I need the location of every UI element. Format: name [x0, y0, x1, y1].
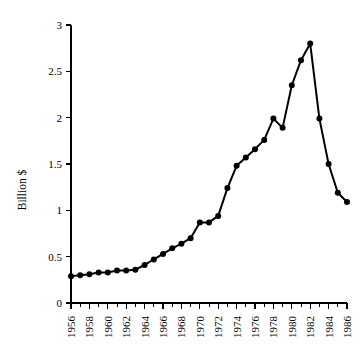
y-axis-title: Billion $	[16, 169, 28, 210]
data-point	[261, 137, 267, 143]
data-point	[215, 213, 221, 219]
data-point	[86, 271, 92, 277]
y-tick-label: 0.5	[48, 251, 62, 263]
x-tick-label: 1976	[249, 316, 261, 339]
x-tick-label: 1980	[286, 316, 298, 339]
x-axis-ticks	[71, 303, 347, 309]
y-tick-label: 1	[57, 204, 63, 216]
x-tick-label: 1956	[65, 316, 77, 339]
line-chart: 00.511.522.53 19561958196019621964196619…	[0, 0, 360, 359]
data-point	[335, 190, 341, 196]
x-tick-label: 1970	[194, 316, 206, 339]
x-tick-label: 1978	[267, 316, 279, 339]
data-point	[169, 245, 175, 251]
x-axis-tick-labels: 1956195819601962196419661968197019721974…	[65, 316, 353, 339]
x-tick-label: 1962	[120, 316, 132, 338]
y-axis-tick-labels: 00.511.522.53	[48, 19, 62, 309]
x-tick-label: 1964	[139, 316, 151, 339]
data-point	[326, 161, 332, 167]
data-point	[252, 146, 258, 152]
data-point	[188, 235, 194, 241]
data-point	[316, 116, 322, 122]
x-tick-label: 1974	[231, 316, 243, 339]
data-point	[197, 219, 203, 225]
x-tick-label: 1982	[304, 316, 316, 338]
data-point	[114, 268, 120, 274]
y-tick-label: 1.5	[48, 158, 62, 170]
data-point	[344, 199, 350, 205]
data-point	[96, 269, 102, 275]
data-point	[206, 219, 212, 225]
x-tick-label: 1958	[83, 316, 95, 339]
x-tick-label: 1960	[102, 316, 114, 339]
y-tick-label: 2.5	[48, 65, 62, 77]
y-tick-label: 3	[57, 19, 63, 31]
data-point	[270, 116, 276, 122]
data-point	[298, 57, 304, 63]
chart-container: 00.511.522.53 19561958196019621964196619…	[0, 0, 360, 359]
y-axis-ticks	[66, 25, 71, 303]
x-tick-label: 1972	[212, 316, 224, 338]
data-point	[68, 273, 74, 279]
data-point	[160, 251, 166, 257]
data-point	[123, 268, 129, 274]
axis-lines	[71, 25, 347, 303]
data-point	[132, 267, 138, 273]
series-markers	[68, 41, 350, 280]
y-tick-label: 2	[57, 112, 63, 124]
data-point	[151, 256, 157, 262]
series-line	[71, 44, 347, 277]
data-point	[289, 82, 295, 88]
data-point	[105, 269, 111, 275]
data-point	[224, 185, 230, 191]
data-point	[77, 272, 83, 278]
x-tick-label: 1966	[157, 316, 169, 339]
y-tick-label: 0	[57, 297, 63, 309]
data-point	[280, 125, 286, 131]
data-series	[68, 41, 350, 280]
data-point	[142, 262, 148, 268]
data-point	[178, 241, 184, 247]
x-tick-label: 1986	[341, 316, 353, 339]
data-point	[243, 155, 249, 161]
x-tick-label: 1984	[323, 316, 335, 339]
data-point	[307, 41, 313, 47]
x-tick-label: 1968	[175, 316, 187, 339]
data-point	[234, 163, 240, 169]
chart-axes	[66, 25, 347, 309]
